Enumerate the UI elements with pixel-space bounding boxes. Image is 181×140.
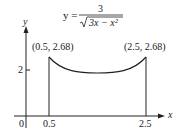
x-axis-label: x [168,110,172,120]
equation-radicand: 3x − x² [89,18,118,28]
point-right-label: (2.5, 2.68) [124,42,166,52]
equation-lhs: y = [63,9,77,21]
y-axis-arrow-icon [24,26,29,33]
function-curve [49,57,146,73]
x-axis-arrow-icon [158,114,165,119]
point-left-label: (0.5, 2.68) [32,42,74,52]
equation: y = [63,10,77,21]
y-axis-label: y [23,17,27,27]
x-tick-0-5: 0.5 [43,119,56,129]
x-tick-2-5: 2.5 [139,119,152,129]
y-tick-label: 2 [18,65,23,75]
origin-label: 0 [19,119,24,129]
equation-numerator: 3 [98,4,103,14]
